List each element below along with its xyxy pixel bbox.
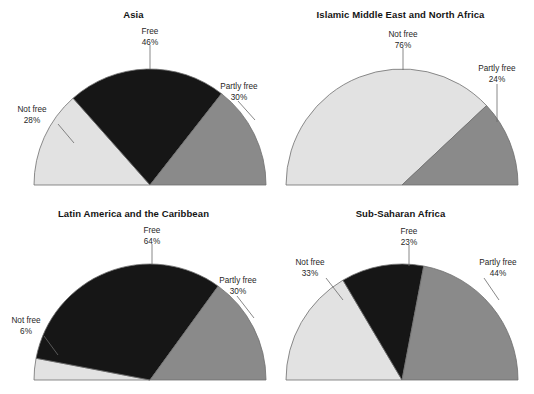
label-free-asia: Free 46% [124, 27, 176, 48]
panel-asia: Asia Free 46% Partly fr [0, 0, 267, 200]
label-free-asia-pct: 46% [124, 38, 176, 49]
label-free-latam: Free 64% [126, 226, 178, 247]
label-partly-free-ssa-pct: 44% [470, 269, 526, 280]
half-pie-chart-figure: Asia Free 46% Partly fr [0, 0, 534, 394]
label-partly-free-latam-name: Partly free [219, 276, 256, 285]
label-partly-free-imena-name: Partly free [478, 64, 515, 73]
label-not-free-latam-pct: 6% [0, 327, 54, 338]
label-not-free-ssa-pct: 33% [282, 269, 338, 280]
label-free-ssa-pct: 23% [383, 238, 435, 249]
leader-line-partly-free-ssa [484, 278, 499, 300]
label-not-free-imena-pct: 76% [377, 41, 429, 52]
label-not-free-ssa-name: Not free [295, 258, 324, 267]
half-pie-imena: Not free 76% Partly free 24% [267, 0, 534, 200]
label-not-free-latam-name: Not free [11, 316, 40, 325]
label-not-free-asia-name: Not free [17, 105, 46, 114]
label-not-free-ssa: Not free 33% [282, 258, 338, 279]
imena-slices [286, 69, 518, 185]
label-not-free-asia: Not free 28% [4, 105, 60, 126]
label-partly-free-asia-pct: 30% [211, 93, 267, 104]
label-partly-free-imena-pct: 24% [469, 75, 525, 86]
label-free-latam-pct: 64% [126, 237, 178, 248]
half-pie-latam: Free 64% Partly free 30% Not free 6% [0, 200, 267, 394]
label-free-ssa: Free 23% [383, 227, 435, 248]
panel-imena: Islamic Middle East and North Africa Not… [267, 0, 534, 200]
panel-latam: Latin America and the Caribbean Free 64% [0, 200, 267, 394]
half-pie-asia: Free 46% Partly free 30% Not free 28% [0, 0, 267, 200]
label-partly-free-ssa-name: Partly free [479, 258, 516, 267]
label-partly-free-asia-name: Partly free [220, 82, 257, 91]
label-not-free-asia-pct: 28% [4, 116, 60, 127]
label-partly-free-latam-pct: 30% [210, 287, 266, 298]
label-partly-free-imena: Partly free 24% [469, 64, 525, 85]
label-not-free-imena-name: Not free [388, 30, 417, 39]
label-not-free-latam: Not free 6% [0, 316, 54, 337]
label-partly-free-latam: Partly free 30% [210, 276, 266, 297]
panel-ssa: Sub-Saharan Africa Free 23% [267, 200, 534, 394]
label-free-ssa-name: Free [401, 227, 418, 236]
label-free-asia-name: Free [142, 27, 159, 36]
label-free-latam-name: Free [144, 226, 161, 235]
ssa-slices [286, 264, 518, 380]
half-pie-ssa: Free 23% Partly free 44% Not free 33% [267, 200, 534, 394]
label-not-free-imena: Not free 76% [377, 30, 429, 51]
label-partly-free-asia: Partly free 30% [211, 82, 267, 103]
label-partly-free-ssa: Partly free 44% [470, 258, 526, 279]
